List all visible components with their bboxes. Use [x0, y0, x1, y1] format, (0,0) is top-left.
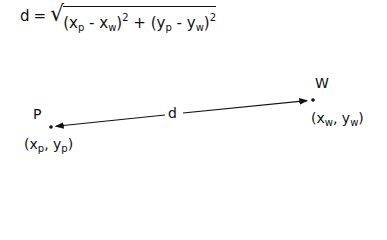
distance-label: d	[168, 105, 177, 121]
point-w-coordinates: (xw, yw)	[311, 110, 364, 128]
point-w-dot	[311, 98, 315, 102]
arrow-to-p-icon	[56, 115, 165, 126]
arrow-to-w-icon	[183, 101, 307, 113]
point-p-dot	[49, 125, 53, 129]
point-w-label: W	[315, 75, 329, 91]
point-p-label: P	[33, 106, 41, 122]
point-p-coordinates: (xp, yp)	[24, 136, 73, 154]
